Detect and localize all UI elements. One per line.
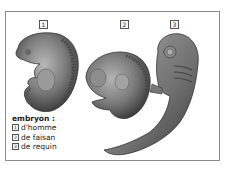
legend-title: embryon : [12, 114, 57, 123]
label-box-1: 1 [39, 20, 48, 29]
label-box-3: 3 [170, 20, 179, 29]
legend-item-pheasant: 2 de faisan [12, 133, 57, 143]
legend-item-shark: 3 de requin [12, 142, 57, 152]
human-embryo-illustration [10, 30, 82, 114]
label-box-2: 2 [120, 20, 129, 29]
legend-label-human: d'homme [21, 123, 56, 133]
legend-number-3: 3 [12, 143, 19, 150]
legend: embryon : 1 d'homme 2 de faisan 3 de req… [12, 114, 57, 152]
legend-number-2: 2 [12, 134, 19, 141]
legend-label-pheasant: de faisan [21, 133, 55, 143]
shark-embryo-illustration [96, 30, 208, 158]
legend-number-1: 1 [12, 124, 19, 131]
legend-item-human: 1 d'homme [12, 123, 57, 133]
legend-label-shark: de requin [21, 142, 57, 152]
